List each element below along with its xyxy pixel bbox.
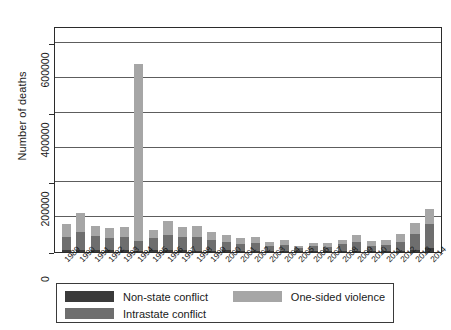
legend-label-non-state-conflict: Non-state conflict [123,291,208,303]
bar-slot-2011 [379,28,394,252]
bar-segment-1992-one-sided-violence [105,228,114,237]
bar-slot-1992 [103,28,118,252]
stacked-bar-1994[interactable] [134,64,143,252]
bar-slot-1996 [161,28,176,252]
bar-segment-1996-one-sided-violence [163,221,172,235]
bar-slot-1990 [74,28,89,252]
bar-segment-1990-one-sided-violence [76,213,85,231]
bar-slot-1998 [190,28,205,252]
bar-slot-1994 [132,28,147,252]
bar-slot-2009 [350,28,365,252]
bar-segment-2000-one-sided-violence [222,235,231,242]
legend-item-one-sided-violence: One-sided violence [233,291,385,303]
bar-slot-2014 [422,28,437,252]
bar-segment-1997-one-sided-violence [178,227,187,237]
legend-label-intrastate-conflict: Intrastate conflict [123,308,206,320]
y-tick-label-600000: 600000 [39,43,51,97]
y-tick-label-0: 0 [39,252,51,306]
bar-slot-2005 [292,28,307,252]
bar-segment-2012-one-sided-violence [396,234,405,242]
bar-slot-2008 [335,28,350,252]
bar-slot-2000 [219,28,234,252]
legend-item-intrastate-conflict: Intrastate conflict [65,308,250,320]
x-axis-ticks: 1989199019911992199319941995199619971998… [54,254,442,284]
bar-segment-1994-one-sided-violence [134,64,143,241]
page-text-cutoff [0,322,451,330]
bar-segment-1993-one-sided-violence [120,227,129,237]
y-tick-label-200000: 200000 [39,182,51,236]
legend-label-one-sided-violence: One-sided violence [291,291,385,303]
legend-swatch-non-state-conflict [65,291,114,302]
bar-slot-2002 [248,28,263,252]
bar-slot-2004 [277,28,292,252]
bar-segment-1998-one-sided-violence [192,226,201,237]
legend-item-non-state-conflict: Non-state conflict [65,291,233,303]
y-axis-title: Number of deaths [16,0,30,232]
bar-segment-1991-one-sided-violence [91,226,100,236]
plot-area [54,27,442,253]
bar-slot-1999 [204,28,219,252]
bar-slot-2006 [306,28,321,252]
legend-row-2: Intrastate conflict [65,305,385,322]
bar-segment-1999-one-sided-violence [207,232,216,240]
bar-segment-2009-one-sided-violence [352,235,361,242]
bar-slot-1995 [146,28,161,252]
y-tick-label-400000: 400000 [39,113,51,167]
bar-slot-2012 [393,28,408,252]
legend-swatch-one-sided-violence [233,291,282,302]
bar-slot-1991 [88,28,103,252]
bar-segment-2014-one-sided-violence [425,209,434,225]
bar-slot-1993 [117,28,132,252]
bar-slot-1989 [59,28,74,252]
legend-swatch-intrastate-conflict [65,308,114,319]
bar-slot-2013 [408,28,423,252]
bar-slot-2003 [262,28,277,252]
bar-segment-2013-one-sided-violence [410,223,419,233]
chart-figure: Number of deaths 0200000400000600000 198… [0,0,451,330]
bar-slot-1997 [175,28,190,252]
chart-legend: Non-state conflict One-sided violence In… [56,283,394,323]
bar-segment-1995-one-sided-violence [149,230,158,238]
bar-slot-2007 [321,28,336,252]
bar-segment-1989-one-sided-violence [62,224,71,237]
bar-slot-2010 [364,28,379,252]
bar-series-container [55,28,441,252]
bar-slot-2001 [233,28,248,252]
legend-row-1: Non-state conflict One-sided violence [65,288,385,305]
